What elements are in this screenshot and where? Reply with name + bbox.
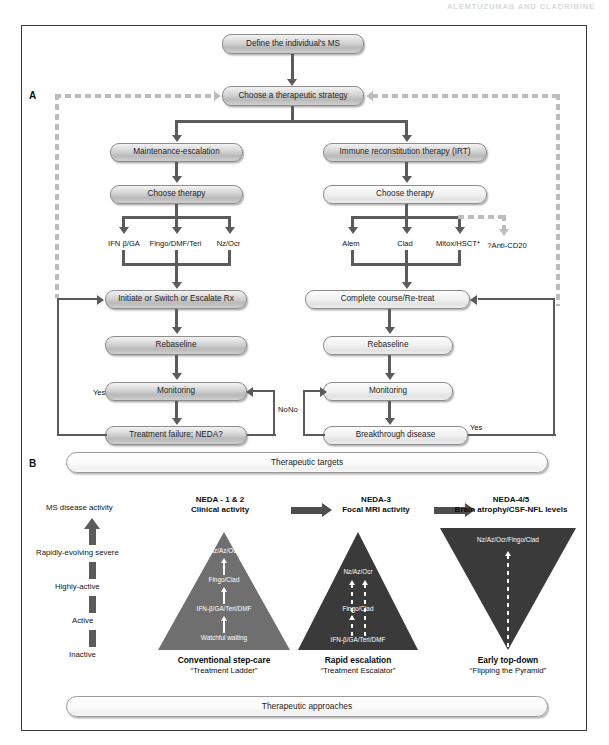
label-no-left: No [278,405,288,414]
tier-label: IFN-β/GA/Teri/DMF [331,636,386,643]
tier-arrow-head [221,616,227,621]
node-choose-therapy-right[interactable]: Choose therapy [323,185,487,204]
escalator-dashed-line [364,584,366,640]
connector-arrow [172,227,182,234]
tier-arrow-stem [223,591,225,604]
connector [175,120,408,123]
loop-arrow [320,387,327,397]
node-breakthrough-disease[interactable]: Breakthrough disease [323,426,468,445]
connector-arrow [402,176,412,183]
drug-label: Alem [327,239,375,248]
loop-yes-left [57,298,99,300]
tier-label: Nz/Az/Ocr [209,547,238,554]
stage-subtitle: Focal MRI activity [342,505,410,514]
drug-label: Clad [382,239,428,248]
loop-yes-right [468,434,556,436]
axis-segment [89,596,96,613]
tier-arrow-stem [223,620,225,633]
axis-level-label: Inactive [69,650,96,659]
tier-arrow-stem [223,562,225,575]
dashed-feedback-left-vertical [55,94,59,298]
escalator-arrow-head [349,580,355,585]
caption-sub: “Treatment Ladder” [178,666,271,677]
loop-no-left [273,391,275,436]
connector-arrow [225,227,235,234]
label-no-right: No [288,405,298,414]
tier-label: Fingo/Clad [209,576,240,583]
tier-label: Fingo/Clad [343,605,374,612]
caption-title: Rapid escalation [320,655,395,666]
loop-yes-right [478,298,555,300]
tier-arrow-head [221,587,227,592]
stage-subtitle: Clinical activity [191,505,249,514]
node-irt[interactable]: Immune reconstitution therapy (IRT) [323,143,487,162]
tier-label: Nz/Az/Ocr/Fingo/Clad [477,536,539,543]
axis-level-label: Active [72,616,93,625]
stage-subtitle: Brain atrophy/CSF-NFL levels [455,505,568,514]
dashed-anticd20-connector [458,215,504,219]
node-treatment-failure[interactable]: Treatment failure; NEDA? [105,426,247,445]
drug-label-anti-cd20: ?Anti-CD20 [479,241,535,250]
axis-level-label: Rapidly-evolving severe [36,548,119,557]
label-yes-right: Yes [470,423,482,432]
loop-arrow [97,295,104,305]
node-rebaseline-left[interactable]: Rebaseline [105,336,247,355]
dashed-feedback-right-vertical [556,94,560,306]
loop-no-left [247,434,276,436]
connector-arrow [402,135,412,142]
axis-segment [89,630,96,647]
connector-arrow [172,418,182,425]
node-define-ms[interactable]: Define the individual's MS [222,34,364,54]
tier-arrow-head [221,558,227,563]
pyramid-rapid-escalation: Nz/Az/Ocr Fingo/Clad IFN-β/GA/Teri/DMF [298,532,418,650]
bar-therapeutic-approaches[interactable]: Therapeutic approaches [66,696,548,717]
bar-therapeutic-targets[interactable]: Therapeutic targets [66,452,548,473]
connector-arrow [385,418,395,425]
caption-sub: “Flipping the Pyramid” [470,666,546,677]
dashed-arrow-left-head [214,91,221,101]
loop-no-right [303,391,305,436]
drug-label: Fingo/DMF/Teri [138,239,213,248]
connector-arrow [385,373,395,380]
stage-neda-1-2: NEDA - 1 & 2 Clinical activity [160,495,280,515]
dashed-arrow-right-head [366,91,373,101]
caption-sub: “Treatment Escalator” [320,666,395,677]
loop-yes-right [553,298,555,436]
tier-label: Watchful waiting [201,634,247,641]
caption-rapid-escalation: Rapid escalation “Treatment Escalator” [320,655,395,677]
axis-level-label: Highly-active [55,582,100,591]
loop-no-left [253,390,275,392]
connector-arrow [348,227,358,234]
node-complete-course[interactable]: Complete course/Re-treat [305,290,470,309]
tier-label: IFN-β/GA/Teri/DMF [197,605,252,612]
pyramid-early-top-down: Nz/Az/Ocr/Fingo/Clad [440,528,576,650]
node-maintenance-escalation[interactable]: Maintenance-escalation [110,143,243,162]
node-monitoring-left[interactable]: Monitoring [105,382,247,401]
node-choose-therapy-left[interactable]: Choose therapy [110,185,243,204]
connector-arrow [172,135,182,142]
connector-arrow [402,282,412,289]
stage-title: NEDA-3 [361,495,391,504]
connector-arrow [455,227,465,234]
connector-arrow [402,227,412,234]
connector-arrow [119,227,129,234]
loop-arrow [246,387,253,397]
dashed-feedback-right [372,94,560,98]
running-header: ALEMTUZUMAB AND CLADRIBINE [447,2,595,11]
pyramid-shape-icon [298,532,418,650]
escalator-dashed-line [351,584,353,640]
panel-b-letter: B [29,458,36,469]
node-rebaseline-right[interactable]: Rebaseline [323,336,453,355]
node-initiate-switch-escalate[interactable]: Initiate or Switch or Escalate Rx [105,290,247,309]
axis-segment [89,562,96,579]
caption-early-top-down: Early top-down “Flipping the Pyramid” [470,655,546,677]
tier-label: Nz/Az/Ocr [343,568,372,575]
caption-title: Early top-down [470,655,546,666]
escalator-arrow-head [362,580,368,585]
connector-arrow [172,327,182,334]
node-choose-strategy[interactable]: Choose a therapeutic strategy [222,86,364,106]
connector [291,54,294,82]
axis-segment [89,529,96,545]
node-monitoring-right[interactable]: Monitoring [323,382,453,401]
stage-neda-4-5: NEDA-4/5 Brain atrophy/CSF-NFL levels [428,495,594,515]
